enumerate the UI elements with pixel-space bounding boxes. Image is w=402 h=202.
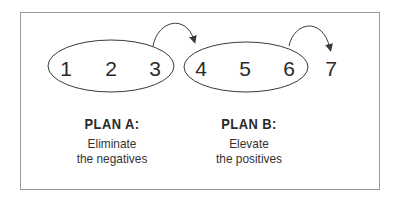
plan-a-label: PLAN A: Eliminate the negatives [72, 116, 152, 166]
plan-a-line2: the negatives [77, 151, 148, 166]
plan-b-line1: Elevate [216, 136, 282, 151]
number-1: 1 [60, 58, 72, 79]
plan-b-label: PLAN B: Elevate the positives [211, 116, 286, 166]
plan-b-line2: the positives [216, 151, 282, 166]
number-5: 5 [239, 58, 251, 79]
number-7: 7 [325, 58, 337, 79]
diagram-graphics [0, 0, 402, 202]
plan-a-line1: Eliminate [77, 136, 148, 151]
plan-a-title: PLAN A: [75, 116, 149, 132]
plan-b-title: PLAN B: [214, 116, 283, 132]
number-6: 6 [283, 58, 295, 79]
number-2: 2 [105, 58, 117, 79]
number-4: 4 [195, 58, 207, 79]
number-3: 3 [149, 58, 161, 79]
arrow-3-to-4 [153, 23, 194, 46]
arrow-6-to-7 [289, 26, 330, 48]
